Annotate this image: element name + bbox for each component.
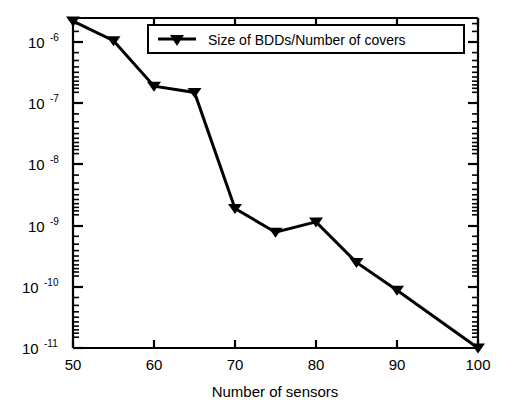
y-tick-label: 10 -11: [22, 338, 58, 357]
y-tick-exponent: -9: [50, 216, 59, 227]
y-tick-exponent: -10: [44, 277, 59, 288]
y-tick-label: 10 -9: [28, 216, 59, 235]
y-tick-mantissa: 10: [28, 34, 45, 51]
chart-figure: 10 -6 10 -7 10 -8 10 -9 10 -10 10 -11: [0, 0, 514, 420]
y-tick-mantissa: 10: [22, 279, 39, 296]
x-axis-tick-labels: 50 60 70 80 90 100: [65, 356, 491, 373]
x-tick-label: 50: [65, 356, 82, 373]
legend-entry-label: Size of BDDs/Number of covers: [208, 32, 406, 48]
y-tick-mantissa: 10: [28, 95, 45, 112]
y-tick-exponent: -7: [50, 93, 59, 104]
y-tick-mantissa: 10: [28, 156, 45, 173]
chart-canvas: 10 -6 10 -7 10 -8 10 -9 10 -10 10 -11: [0, 0, 514, 420]
x-tick-label: 60: [146, 356, 163, 373]
x-tick-label: 90: [389, 356, 406, 373]
y-tick-exponent: -8: [50, 154, 59, 165]
x-axis-title: Number of sensors: [212, 383, 339, 400]
y-tick-label: 10 -7: [28, 93, 59, 112]
x-tick-label: 100: [465, 356, 490, 373]
y-tick-exponent: -6: [50, 32, 59, 43]
x-tick-label: 70: [227, 356, 244, 373]
x-tick-label: 80: [308, 356, 325, 373]
y-tick-mantissa: 10: [22, 340, 39, 357]
y-tick-label: 10 -6: [28, 32, 59, 51]
y-tick-mantissa: 10: [28, 218, 45, 235]
legend[interactable]: Size of BDDs/Number of covers: [148, 25, 464, 53]
y-axis-tick-labels: 10 -6 10 -7 10 -8 10 -9 10 -10 10 -11: [22, 32, 59, 357]
plot-area-background: [73, 18, 478, 348]
y-tick-label: 10 -8: [28, 154, 59, 173]
y-tick-label: 10 -10: [22, 277, 59, 296]
y-tick-exponent: -11: [44, 338, 58, 349]
